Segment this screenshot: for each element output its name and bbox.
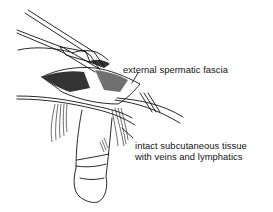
illustration-drawing xyxy=(0,0,273,212)
shaft-outline xyxy=(74,110,112,203)
label-tissue-line-1: intact subcutaneous tissue xyxy=(135,141,247,152)
label-tissue-line-2: with veins and lymphatics xyxy=(135,152,247,163)
surgical-illustration: external spermatic fascia intact subcuta… xyxy=(0,0,273,212)
label-subcutaneous-tissue: intact subcutaneous tissue with veins an… xyxy=(135,141,247,162)
label-external-spermatic-fascia: external spermatic fascia xyxy=(123,65,228,76)
retractor-icon xyxy=(17,93,183,125)
